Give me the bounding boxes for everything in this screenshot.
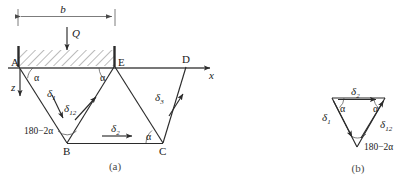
delta3-arrow xyxy=(169,94,183,116)
member-EC xyxy=(115,67,163,143)
axis-z-label: z xyxy=(10,81,16,93)
delta3-label: δ3 xyxy=(155,91,164,106)
displacement-delta12: δ12 xyxy=(64,97,96,120)
dimension-label-b: b xyxy=(60,3,66,15)
displacement-delta1: δ1 xyxy=(47,87,63,118)
delta12-arrow xyxy=(75,97,96,120)
angle-label-C: α xyxy=(146,131,152,142)
panel-b-angle-label-bottom: 180−2α xyxy=(364,142,393,152)
caption-b: (b) xyxy=(352,162,365,175)
displacement-delta3: δ3 xyxy=(155,91,183,116)
member-BE xyxy=(67,67,114,143)
load-label-Q: Q xyxy=(72,27,80,39)
panel-b-delta1-label: δ1 xyxy=(322,111,331,126)
figure-container: b Q x z A xyxy=(0,0,420,186)
panel-b-angle-label-left: α xyxy=(340,103,346,114)
engineering-diagram: b Q x z A xyxy=(0,0,420,186)
node-label-A: A xyxy=(11,56,19,68)
hatch-area xyxy=(18,50,115,66)
node-label-B: B xyxy=(63,145,70,157)
axis-x-label: x xyxy=(208,69,214,81)
node-label-E: E xyxy=(118,56,125,68)
displacement-delta2: δ2 xyxy=(102,122,132,137)
angle-label-A: α xyxy=(34,72,40,83)
node-label-D: D xyxy=(182,53,190,65)
delta2-label: δ2 xyxy=(111,122,120,137)
caption-a: (a) xyxy=(109,160,122,173)
panel-b-delta1: δ1 xyxy=(322,101,352,137)
delta1-label: δ1 xyxy=(47,87,56,102)
dimension-b: b xyxy=(18,3,115,26)
panel-b-delta12-label: δ12 xyxy=(380,118,393,133)
member-CD xyxy=(163,67,186,143)
node-label-C: C xyxy=(159,145,166,157)
angle-arc-A xyxy=(28,68,33,78)
angle-label-E: α xyxy=(100,72,106,83)
delta12-label: δ12 xyxy=(64,102,77,117)
angle-label-B: 180−2α xyxy=(24,126,53,136)
load-arrow-Q: Q xyxy=(67,27,80,50)
axis-z: z xyxy=(10,69,20,96)
